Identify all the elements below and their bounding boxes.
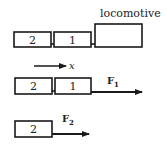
car-1-label: 1: [69, 34, 76, 47]
car-2-label: 2: [30, 123, 37, 136]
car-2-label: 2: [29, 34, 36, 47]
locomotive-box: [95, 24, 142, 47]
x-axis-direction: x: [34, 60, 75, 71]
force-f1-label: F1: [107, 75, 119, 89]
x-axis-label: x: [69, 60, 75, 71]
locomotive-label: locomotive: [100, 7, 161, 20]
car-1-label: 1: [70, 80, 77, 93]
row-full-train: 2 1 locomotive: [14, 7, 161, 47]
row-car-with-f2: 2 F2: [15, 113, 89, 137]
force-f2-label: F2: [62, 113, 74, 127]
row-cars-with-f1: 2 1 F1: [15, 75, 142, 94]
train-diagram: 2 1 locomotive x 2 1 F1 2 F2: [0, 0, 167, 148]
car-2-label: 2: [30, 80, 37, 93]
